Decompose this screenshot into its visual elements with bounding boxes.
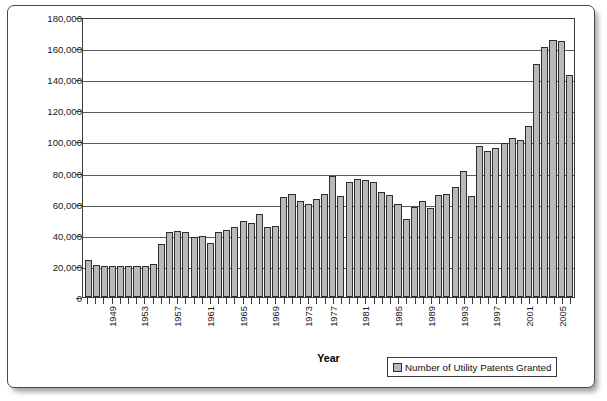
x-axis-tick [239, 298, 247, 305]
y-axis-tick-label: 0 [10, 293, 82, 304]
x-axis-label-slot: 1957 [173, 306, 181, 346]
x-axis-tick [108, 298, 116, 305]
x-axis-ticks [82, 298, 575, 305]
x-axis-tick [509, 298, 517, 305]
x-axis-tick [443, 298, 451, 305]
x-axis-label-slot [476, 306, 484, 346]
x-axis-label-slot [116, 306, 124, 346]
x-axis-label-slot [378, 306, 386, 346]
chart-canvas: 180,000160,000140,000120,000100,00080,00… [0, 0, 607, 401]
x-axis-tick [533, 298, 541, 305]
x-axis-tick-mark [153, 298, 154, 304]
x-axis-label-slot [157, 306, 165, 346]
x-axis-tick [501, 298, 509, 305]
x-axis-label-slot [370, 306, 378, 346]
x-axis-tick-mark [95, 298, 96, 304]
x-axis-tick [165, 298, 173, 305]
plot-area [82, 18, 575, 298]
x-axis-tick [124, 298, 132, 305]
x-axis-tick-mark [185, 298, 186, 304]
bar [370, 182, 377, 297]
x-axis-tick-mark [128, 298, 129, 304]
legend: Number of Utility Patents Granted [387, 357, 557, 377]
x-axis-label-slot [124, 306, 132, 346]
bar [362, 180, 369, 297]
bar [109, 266, 116, 297]
bar [280, 197, 287, 297]
x-axis-tick [320, 298, 328, 305]
x-axis-label-slot: 2001 [525, 306, 533, 346]
bar [125, 266, 132, 297]
x-axis-tick [116, 298, 124, 305]
x-axis-label-slot: 2005 [558, 306, 566, 346]
x-axis-label-slot: 1969 [271, 306, 279, 346]
x-axis-tick-mark [169, 298, 170, 304]
x-axis-tick-mark [161, 298, 162, 304]
x-axis-label-slot [411, 306, 419, 346]
x-axis-tick-mark [382, 298, 383, 304]
x-axis-label-slot [468, 306, 476, 346]
x-axis-tick-mark [513, 298, 514, 304]
y-axis: 180,000160,000140,000120,000100,00080,00… [0, 0, 82, 401]
x-axis-tick-mark [267, 298, 268, 304]
x-axis-tick-mark [259, 298, 260, 304]
bar [460, 171, 467, 297]
x-axis-tick-mark [357, 298, 358, 304]
bar [435, 195, 442, 297]
x-axis-tick [386, 298, 394, 305]
x-axis-label-slot [501, 306, 509, 346]
y-axis-tick-label: 100,000 [10, 137, 82, 148]
bar [166, 232, 173, 297]
bar [93, 265, 100, 297]
x-axis-tick-mark [562, 298, 563, 304]
x-axis-tick [271, 298, 279, 305]
bar [394, 204, 401, 297]
x-axis-tick [230, 298, 238, 305]
x-axis-tick [132, 298, 140, 305]
bar [297, 201, 304, 297]
x-axis-tick [484, 298, 492, 305]
bar [386, 195, 393, 297]
x-axis-label-slot [247, 306, 255, 346]
bar [240, 221, 247, 297]
x-axis-label-slot [83, 306, 91, 346]
x-axis-tick [402, 298, 410, 305]
y-axis-tick-label: 180,000 [10, 13, 82, 24]
x-axis-tick-mark [218, 298, 219, 304]
bar [101, 266, 108, 297]
x-axis-tick-mark [537, 298, 538, 304]
x-axis-tick-mark [488, 298, 489, 304]
x-axis-label-slot [214, 306, 222, 346]
x-axis-tick-mark [325, 298, 326, 304]
x-axis-tick [460, 298, 468, 305]
x-axis-tick [468, 298, 476, 305]
x-axis-tick [280, 298, 288, 305]
x-axis-tick [492, 298, 500, 305]
x-axis-tick-mark [415, 298, 416, 304]
y-axis-tick-label: 40,000 [10, 230, 82, 241]
x-axis-label-slot: 1949 [108, 306, 116, 346]
y-axis-tick-label: 20,000 [10, 261, 82, 272]
x-axis-label-slot: 1965 [239, 306, 247, 346]
x-axis-tick-mark [554, 298, 555, 304]
x-axis-tick-mark [496, 298, 497, 304]
bar [476, 146, 483, 297]
x-axis-tick-mark [480, 298, 481, 304]
x-axis-tick-mark [194, 298, 195, 304]
bar [142, 266, 149, 297]
x-axis-label-slot [533, 306, 541, 346]
x-axis-tick-mark [251, 298, 252, 304]
x-axis-tick-mark [333, 298, 334, 304]
x-axis-label-slot: 1961 [206, 306, 214, 346]
x-axis-tick-mark [529, 298, 530, 304]
bar [443, 194, 450, 297]
x-axis-label-slot [91, 306, 99, 346]
x-axis-label-slot [402, 306, 410, 346]
x-axis-label-slot [222, 306, 230, 346]
x-axis-label-slot: 1953 [140, 306, 148, 346]
y-axis-tick-label: 120,000 [10, 106, 82, 117]
x-axis-tick [378, 298, 386, 305]
x-axis-tick [329, 298, 337, 305]
x-axis-tick-mark [505, 298, 506, 304]
bar [256, 214, 263, 297]
